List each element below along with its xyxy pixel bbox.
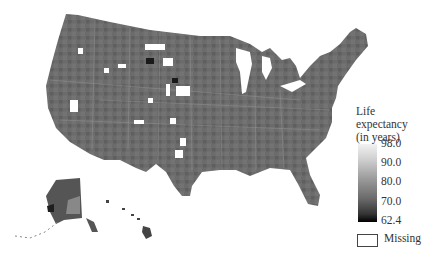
tick-label: 80.0 <box>381 175 401 187</box>
missing-swatch <box>357 234 378 247</box>
tick-label: 70.0 <box>381 195 401 207</box>
hawaii <box>106 200 152 239</box>
colorbar <box>358 144 377 222</box>
tick-label: 98.0 <box>381 137 401 149</box>
missing-label: Missing <box>384 232 421 244</box>
tick-label: 90.0 <box>381 156 401 168</box>
tick-label: 62.4 <box>381 214 401 226</box>
legend-title-line1: Life expectancy <box>356 105 427 131</box>
